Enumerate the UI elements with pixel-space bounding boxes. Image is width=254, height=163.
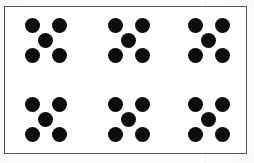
dot-bottom-left bbox=[108, 48, 123, 63]
dot-top-left bbox=[108, 18, 123, 33]
dot-group-3 bbox=[188, 18, 232, 63]
dot-center bbox=[38, 112, 53, 127]
dot-top-left bbox=[108, 97, 123, 112]
figure-border-frame bbox=[4, 6, 247, 154]
dot-center bbox=[121, 33, 136, 48]
dot-bottom-right bbox=[135, 127, 150, 142]
dot-center bbox=[121, 112, 136, 127]
dot-bottom-right bbox=[52, 48, 67, 63]
dot-top-left bbox=[25, 18, 40, 33]
dot-bottom-left bbox=[25, 48, 40, 63]
figure-root bbox=[0, 0, 254, 163]
dot-plate bbox=[5, 7, 246, 153]
dot-bottom-left bbox=[108, 127, 123, 142]
dot-bottom-left bbox=[188, 48, 203, 63]
dot-center bbox=[201, 112, 216, 127]
dot-top-right bbox=[135, 97, 150, 112]
dot-bottom-right bbox=[52, 127, 67, 142]
dot-center bbox=[201, 33, 216, 48]
dot-top-right bbox=[135, 18, 150, 33]
dot-top-left bbox=[188, 18, 203, 33]
dot-top-left bbox=[25, 97, 40, 112]
dot-group-5 bbox=[108, 97, 152, 142]
dot-bottom-right bbox=[215, 48, 230, 63]
dot-bottom-right bbox=[215, 127, 230, 142]
dot-bottom-right bbox=[135, 48, 150, 63]
dot-group-4 bbox=[25, 97, 69, 142]
dot-top-right bbox=[52, 97, 67, 112]
dot-top-right bbox=[215, 97, 230, 112]
dot-bottom-left bbox=[188, 127, 203, 142]
dot-top-left bbox=[188, 97, 203, 112]
dot-top-right bbox=[52, 18, 67, 33]
dot-top-right bbox=[215, 18, 230, 33]
dot-group-1 bbox=[25, 18, 69, 63]
dot-group-2 bbox=[108, 18, 152, 63]
dot-group-6 bbox=[188, 97, 232, 142]
dot-bottom-left bbox=[25, 127, 40, 142]
dot-center bbox=[38, 33, 53, 48]
